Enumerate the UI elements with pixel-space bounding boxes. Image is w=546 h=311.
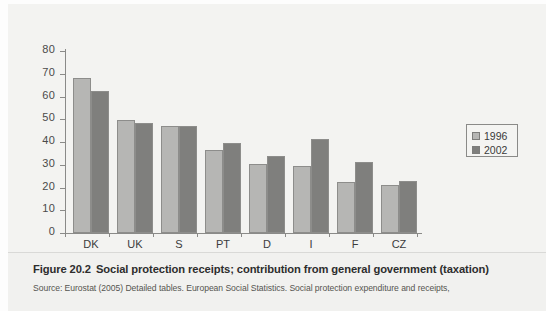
bar-S-2002 [179,126,197,233]
bar-D-1996 [249,164,267,233]
y-tick-label: 80 [42,43,55,55]
figure-title: Social protection receipts; contribution… [96,263,489,275]
legend-swatch-1996 [472,132,480,140]
legend-label-2002: 2002 [484,144,507,156]
legend-item-1996: 1996 [472,129,517,142]
plot-area [65,51,420,233]
bar-group [161,51,197,233]
caption-divider [8,252,546,253]
legend-swatch-2002 [472,146,480,154]
bar-I-1996 [293,166,311,233]
figure-page: 01020304050607080 DKUKSPTDIFCZ 1996 2002… [0,0,546,311]
bar-UK-1996 [117,120,135,233]
bar-CZ-1996 [381,185,399,233]
bar-UK-2002 [135,123,153,233]
x-axis-line [65,233,422,234]
y-tick-label: 60 [42,89,55,101]
x-tick-mark [153,233,154,237]
figure-caption: Figure 20.2Social protection receipts; c… [33,263,489,275]
y-tick-label: 50 [42,111,55,123]
bar-PT-2002 [223,143,241,233]
x-tick-mark [109,233,110,237]
bar-group [293,51,329,233]
y-tick-label: 70 [42,66,55,78]
legend-label-1996: 1996 [484,130,507,142]
y-tick-label: 20 [42,180,55,192]
y-tick-label: 30 [42,157,55,169]
figure-number: Figure 20.2 [33,263,91,275]
bar-PT-1996 [205,150,223,233]
x-tick-mark [417,233,418,237]
bar-group [205,51,241,233]
caption-block: Figure 20.2Social protection receipts; c… [8,252,546,311]
chart-legend: 1996 2002 [466,124,518,157]
x-tick-mark [197,233,198,237]
bar-CZ-2002 [399,181,417,233]
bar-S-1996 [161,126,179,233]
bar-group [381,51,417,233]
bar-group [117,51,153,233]
bar-group [249,51,285,233]
y-tick-label: 40 [42,134,55,146]
x-tick-mark [373,233,374,237]
y-tick-label: 0 [49,225,55,237]
bar-DK-1996 [73,78,91,233]
x-tick-mark [65,233,66,237]
x-tick-mark [329,233,330,237]
bar-D-2002 [267,156,285,233]
legend-item-2002: 2002 [472,143,517,156]
x-tick-mark [241,233,242,237]
y-tick-label: 10 [42,202,55,214]
bar-group [337,51,373,233]
chart-figure-area: 01020304050607080 DKUKSPTDIFCZ 1996 2002 [8,4,546,252]
x-axis-label-CZ: CZ [369,238,429,250]
bar-group [73,51,109,233]
bar-DK-2002 [91,91,109,233]
bar-F-1996 [337,182,355,233]
bar-F-2002 [355,162,373,233]
x-tick-mark [285,233,286,237]
bar-I-2002 [311,139,329,233]
figure-source: Source: Eurostat (2005) Detailed tables.… [33,283,450,293]
